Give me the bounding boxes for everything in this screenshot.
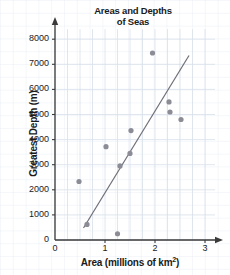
data-point <box>127 151 132 156</box>
y-axis-tick-label: 3000 <box>19 159 49 169</box>
data-point <box>76 179 81 184</box>
x-axis-label-prefix: Area (millions of km <box>81 257 173 268</box>
y-axis-tick-label: 2000 <box>19 184 49 194</box>
y-axis-tick-label: 8000 <box>19 33 49 43</box>
data-point <box>103 144 108 149</box>
y-axis-tick-label: 4000 <box>19 134 49 144</box>
data-point <box>178 117 183 122</box>
chart-axes <box>52 17 223 243</box>
data-point <box>167 109 172 114</box>
x-axis-tick-label: 3 <box>197 243 213 253</box>
data-point <box>166 99 171 104</box>
chart-gridlines <box>55 29 215 240</box>
data-point <box>150 50 155 55</box>
data-point <box>115 231 120 236</box>
chart-title: Areas and Depths of Seas <box>68 5 198 27</box>
y-axis-arrowhead <box>52 17 58 25</box>
x-axis-tick-label: 0 <box>47 243 63 253</box>
data-point <box>128 128 133 133</box>
y-axis-tick-label: 6000 <box>19 83 49 93</box>
y-axis-tick-label: 1000 <box>19 209 49 219</box>
y-axis-tick-label: 7000 <box>19 58 49 68</box>
x-axis-label-suffix: ) <box>176 257 179 268</box>
x-axis-label: Area (millions of km2) <box>40 256 220 268</box>
x-axis-arrowhead <box>215 237 223 243</box>
x-axis-tick-label: 2 <box>147 243 163 253</box>
trend-line <box>84 56 190 228</box>
x-axis-tick-label: 1 <box>97 243 113 253</box>
y-axis-tick-label: 0 <box>19 234 49 244</box>
data-point <box>117 163 122 168</box>
y-axis-tick-label: 5000 <box>19 109 49 119</box>
chart-title-line-2: of Seas <box>68 16 198 27</box>
data-point <box>84 222 89 227</box>
chart-title-line-1: Areas and Depths <box>68 5 198 16</box>
scatter-plot-chart: Areas and Depths of Seas Greatest Depth … <box>0 0 230 275</box>
